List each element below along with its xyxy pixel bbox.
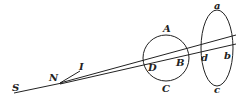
label-I: I	[78, 61, 84, 72]
ray-n-i	[60, 71, 80, 83]
label-b: b	[224, 50, 231, 61]
label-C: C	[162, 83, 170, 94]
optics-diagram: S N I A B C D a b c d	[0, 0, 250, 102]
label-S: S	[12, 82, 19, 93]
label-B: B	[175, 57, 184, 68]
ray-s-n	[14, 83, 62, 93]
label-D: D	[147, 62, 157, 73]
label-d: d	[201, 52, 208, 63]
ray-upper	[60, 35, 236, 83]
label-A: A	[162, 23, 171, 34]
label-c: c	[214, 84, 220, 95]
label-N: N	[48, 72, 59, 83]
label-a: a	[214, 0, 220, 11]
